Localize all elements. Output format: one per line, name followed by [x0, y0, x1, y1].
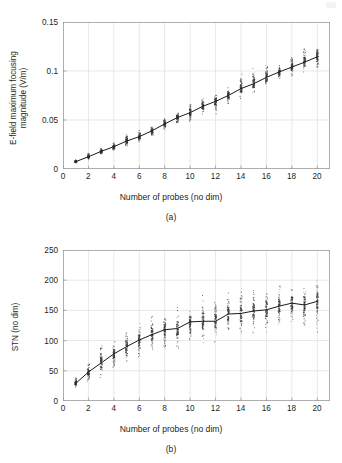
panel-b-ytick-1: 50: [49, 366, 58, 375]
panel-a-xtick-10: 20: [312, 172, 321, 181]
panel-a-ytick-2: 0.1: [47, 67, 58, 76]
panel-a-xtick-1: 2: [86, 172, 91, 181]
panel-a-xtick-7: 14: [236, 172, 245, 181]
panel-b-y-axis-label-line1: STN (no dim): [11, 303, 20, 352]
panel-a-xtick-5: 10: [185, 172, 194, 181]
panel-b-ytick-2: 100: [44, 336, 58, 345]
panel-a-xtick-9: 18: [287, 172, 296, 181]
panel-b-xtick-3: 6: [137, 404, 142, 413]
panel-b-plot-area: [63, 250, 330, 401]
panel-a: E-field maximum focusing magnitude (V/m)…: [0, 0, 342, 231]
panel-a-xtick-6: 12: [211, 172, 220, 181]
panel-b-xtick-0: 0: [61, 404, 66, 413]
panel-b-xtick-5: 10: [185, 404, 194, 413]
panel-b-xtick-1: 2: [86, 404, 91, 413]
panel-b-xtick-8: 16: [262, 404, 271, 413]
panel-b-ytick-4: 200: [44, 276, 58, 285]
panel-b-xtick-9: 18: [287, 404, 296, 413]
panel-a-ytick-0: 0: [53, 165, 58, 174]
panel-b-x-axis-label: Number of probes (no dim): [0, 424, 342, 434]
panel-b: STN (no dim) 250 200 150 100 50 0 0 2 4 …: [0, 232, 342, 463]
panel-b-caption: (b): [0, 444, 342, 454]
panel-b-ytick-3: 150: [44, 306, 58, 315]
panel-a-plot-area: [63, 22, 330, 169]
panel-a-xtick-4: 8: [162, 172, 167, 181]
panel-a-ytick-3: 0.15: [42, 18, 58, 27]
figure-container: E-field maximum focusing magnitude (V/m)…: [0, 0, 342, 463]
panel-b-ytick-0: 0: [53, 397, 58, 406]
panel-b-xtick-10: 20: [312, 404, 321, 413]
panel-a-ytick-1: 0.05: [42, 116, 58, 125]
panel-b-ytick-5: 250: [44, 246, 58, 255]
panel-a-xtick-0: 0: [61, 172, 66, 181]
panel-a-y-axis-label-line1: E-field maximum focusing: [9, 51, 18, 145]
panel-a-xtick-2: 4: [112, 172, 117, 181]
panel-b-y-axis-label: STN (no dim): [11, 247, 21, 407]
panel-b-xtick-4: 8: [162, 404, 167, 413]
panel-a-caption: (a): [0, 212, 342, 222]
panel-a-xtick-8: 16: [262, 172, 271, 181]
panel-a-x-axis-label: Number of probes (no dim): [0, 192, 342, 202]
panel-b-xtick-6: 12: [211, 404, 220, 413]
panel-a-xtick-3: 6: [137, 172, 142, 181]
panel-b-xtick-7: 14: [236, 404, 245, 413]
panel-b-xtick-2: 4: [112, 404, 117, 413]
